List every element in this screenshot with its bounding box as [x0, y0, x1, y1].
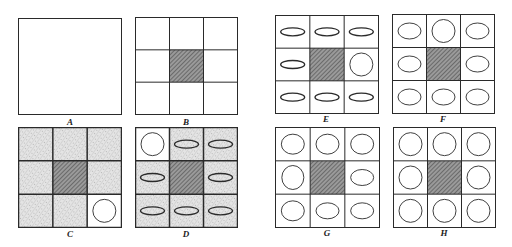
hatched-center-cell [310, 48, 344, 81]
panel-h [393, 127, 496, 228]
panel-c [18, 127, 122, 228]
circle-icon [399, 199, 422, 222]
circle-icon [467, 166, 490, 189]
hatched-center-cell [310, 161, 345, 194]
panel-f [392, 14, 495, 114]
hatched-center-cell [428, 161, 462, 194]
panel-border [19, 19, 122, 115]
panel-label-h: H [434, 228, 454, 238]
circle-icon [399, 166, 422, 189]
panel-label-e: E [316, 114, 336, 124]
circle-icon [467, 199, 490, 222]
circle-icon [350, 53, 373, 76]
hatched-center-cell [53, 161, 87, 194]
ellipse-icon [351, 203, 374, 219]
circle-icon [141, 133, 164, 156]
circle-icon [399, 133, 422, 156]
ellipse-icon [351, 134, 374, 154]
circle-icon [432, 20, 455, 43]
ellipse-icon [398, 56, 421, 72]
ellipse-icon [466, 23, 489, 39]
ellipse-icon [281, 134, 304, 154]
flat-ellipse-icon [315, 28, 339, 36]
panel-g [275, 127, 380, 228]
flat-ellipse-icon [349, 93, 373, 101]
panel-label-f: F [433, 114, 453, 124]
hatched-center-cell [427, 48, 461, 81]
ellipse-icon [282, 166, 304, 190]
flat-ellipse-icon [349, 28, 373, 36]
panel-e [275, 15, 379, 114]
flat-ellipse-icon [281, 61, 305, 69]
stippled-cell [19, 128, 53, 161]
hatched-center-cell [170, 161, 204, 194]
panel-label-g: G [317, 228, 337, 238]
panel-label-d: D [176, 229, 196, 239]
circle-icon [433, 133, 456, 156]
ellipse-icon [281, 201, 304, 221]
circle-icon [433, 199, 456, 222]
ellipse-icon [432, 89, 455, 105]
stippled-cell [19, 194, 53, 227]
circle-icon [93, 199, 116, 222]
ellipse-icon [466, 89, 489, 105]
ellipse-icon [466, 56, 489, 72]
stippled-cell [87, 161, 121, 194]
hatched-center-cell [170, 50, 204, 82]
panel-b [135, 17, 238, 115]
stippled-cell [53, 128, 87, 161]
panel-label-c: C [60, 229, 80, 239]
panel-a [18, 18, 122, 115]
circle-icon [467, 133, 490, 156]
panel-label-b: B [176, 117, 196, 127]
ellipse-icon [316, 134, 339, 154]
ellipse-icon [316, 203, 339, 219]
panel-label-a: A [60, 117, 80, 127]
panel-d [135, 127, 238, 228]
stippled-cell [19, 161, 53, 194]
stippled-cell [87, 128, 121, 161]
flat-ellipse-icon [281, 28, 305, 36]
ellipse-icon [398, 23, 421, 39]
flat-ellipse-icon [315, 93, 339, 101]
flat-ellipse-icon [281, 93, 305, 101]
ellipse-icon [398, 89, 421, 105]
ellipse-icon [351, 170, 374, 186]
stippled-cell [53, 194, 87, 227]
